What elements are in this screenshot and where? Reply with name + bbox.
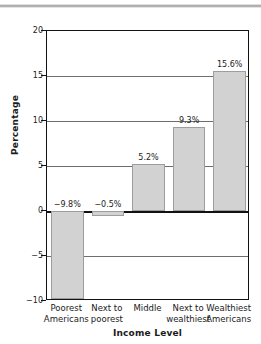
bar-value-label: 15.6% (217, 60, 242, 69)
x-tick-label: Middle (133, 303, 161, 314)
x-axis-title: Income Level (46, 328, 249, 338)
bar (132, 164, 164, 211)
y-tick-label: 5 (3, 161, 43, 170)
y-tick-label: 15 (3, 71, 43, 80)
x-tick-label-line: poorest (91, 314, 123, 325)
x-tick-label-line: Next to (91, 303, 123, 314)
bar-value-label: −9.8% (54, 200, 81, 209)
bar-chart-figure: Percentage 20151050−5−10 −9.8%−0.5%5.2%9… (0, 0, 261, 344)
x-tick-label-line: wealthiest (166, 314, 210, 325)
bar (213, 71, 245, 211)
bar-value-label: −0.5% (94, 200, 121, 209)
y-tick-mark (41, 300, 46, 301)
bar (92, 211, 124, 216)
x-tick-label: Next topoorest (91, 303, 123, 324)
y-tick-label: 20 (3, 26, 43, 35)
y-tick-label: 0 (3, 206, 43, 215)
bar (173, 127, 205, 211)
bar-value-label: 5.2% (138, 153, 158, 162)
x-tick-label-line: Next to (166, 303, 210, 314)
y-axis-title: Percentage (10, 80, 20, 170)
plot-area: −9.8%−0.5%5.2%9.3%15.6% (46, 30, 249, 300)
bar (51, 211, 83, 299)
y-tick-label: −10 (3, 296, 43, 305)
x-tick-label: PoorestAmericans (44, 303, 89, 324)
x-tick-label-line: Americans (44, 314, 89, 325)
y-tick-label: 10 (3, 116, 43, 125)
x-tick-label-line: Middle (133, 303, 161, 314)
x-tick-label-line: Americans (206, 314, 251, 325)
bar-value-label: 9.3% (179, 116, 199, 125)
x-tick-label-line: Wealthiest (206, 303, 251, 314)
x-tick-label: WealthiestAmericans (206, 303, 251, 324)
x-tick-label-line: Poorest (44, 303, 89, 314)
y-tick-label: −5 (3, 251, 43, 260)
x-tick-label: Next towealthiest (166, 303, 210, 324)
